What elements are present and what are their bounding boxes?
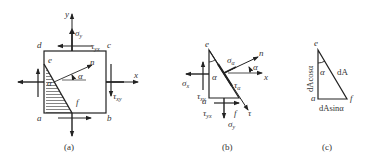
panel-a: y σy τyx d c e n α α f τxy x a b (a) [18,9,138,152]
label-tau-alpha: τα [234,80,241,91]
label-tau-xy: τxy [113,91,122,102]
label-d: d [37,40,42,50]
label-y: y [64,9,69,19]
label-dA: dA [337,67,349,77]
label-alpha-n: α [78,71,83,81]
angle-alpha-arc [72,75,73,80]
sigma-alpha-arrow [224,67,236,73]
label-tau: τ [248,108,252,118]
label-tau-yx: τyx [91,41,100,52]
label-x: x [263,72,268,82]
caption-c: (c) [322,142,332,152]
label-n: n [259,48,264,58]
label-x: x [133,70,138,80]
angle-alpha-vertex-arc [209,60,215,62]
label-alpha-x: α [253,62,258,72]
label-a: a [37,113,42,123]
label-sigma-y: σy [228,119,235,130]
label-alpha-plane: α [47,78,52,88]
label-c: c [107,40,111,50]
tau-alpha-arrow [218,64,232,86]
angle-alpha-arc [318,61,325,63]
label-b: b [107,113,112,123]
label-dAcos: dAcosα [305,65,315,92]
label-e: e [205,39,209,49]
label-f: f [350,93,354,103]
angle-alpha-arc [249,67,250,73]
label-e: e [314,38,318,48]
stress-element-diagram: y σy τyx d c e n α α f τxy x a b (a) [0,0,373,165]
panel-b: e σα n α x α σx τα τxy a τyx f τ σy (b) [182,39,268,152]
label-f: f [234,108,238,118]
label-alpha-vertex: α [212,72,217,82]
caption-a: (a) [64,142,74,152]
label-sigma-x: σx [182,78,189,89]
panel-c: e α dA a f dAsinα dAcosα (c) [305,38,354,152]
caption-b: (b) [222,142,233,152]
label-tau-yx: τyx [203,108,212,119]
label-n: n [90,57,95,67]
label-f: f [76,97,80,107]
label-a: a [202,96,207,106]
label-alpha: α [320,67,325,77]
label-sigma-alpha: σα [227,55,235,66]
label-e: e [48,55,52,65]
label-dAsin: dAsinα [319,103,344,113]
label-a: a [311,93,316,103]
label-sigma-y: σy [75,28,82,39]
